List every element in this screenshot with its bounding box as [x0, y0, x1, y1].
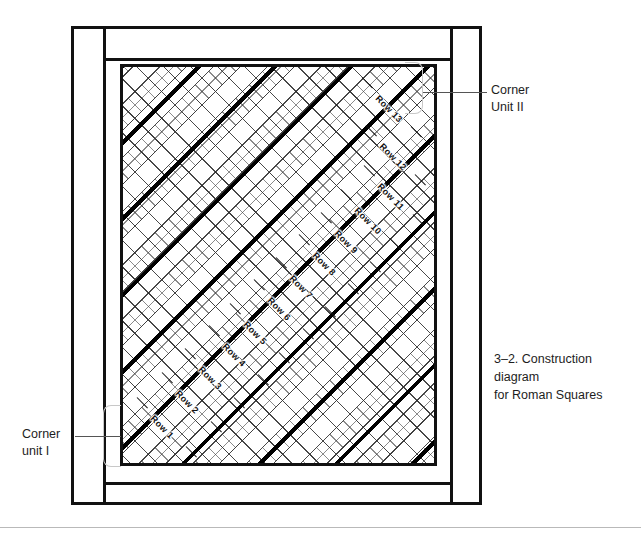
corner-unit-2-leader: [423, 92, 487, 93]
figure-caption: 3–2. Construction diagram for Roman Squa…: [494, 350, 639, 404]
corner-unit-1-leader: [75, 436, 121, 437]
figure-canvas: Row 1Row 2Row 3Row 4Row 5Row 6Row 7Row 8…: [0, 0, 641, 533]
diagonal-band-separators: [120, 64, 437, 466]
weave-layers: [120, 64, 437, 466]
frame-right-stile: [450, 26, 453, 505]
frame-top-rail: [106, 58, 450, 61]
corner-unit-2-bracket: [405, 62, 423, 114]
corner-unit-2-label: Corner Unit II: [491, 82, 529, 116]
frame-bottom-rail: [106, 482, 450, 485]
corner-unit-1-label: Corner unit I: [22, 426, 60, 460]
page-bottom-rule: [0, 527, 641, 528]
roman-squares-field: [120, 64, 437, 466]
